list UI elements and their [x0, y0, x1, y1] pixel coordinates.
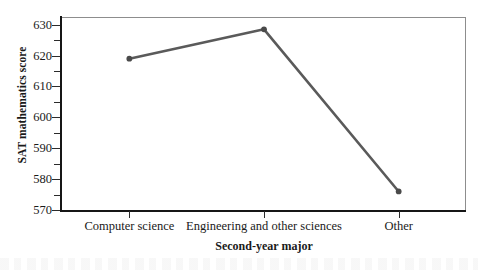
- y-axis-tick-major: [52, 210, 60, 211]
- y-axis-tick-major: [52, 179, 60, 180]
- chart-figure: SAT mathematics score 630620610600590580…: [0, 0, 478, 270]
- page-bleed-artifact: [0, 258, 478, 270]
- y-axis-tick-minor: [54, 102, 60, 103]
- y-axis-tick-label: 590: [10, 142, 52, 154]
- y-axis-tick-minor: [54, 164, 60, 165]
- y-axis-tick-major: [52, 117, 60, 118]
- y-axis-tick-label: 610: [10, 80, 52, 92]
- data-point-marker: [126, 56, 132, 62]
- y-axis-tick-label: 580: [10, 173, 52, 185]
- data-series-line: [62, 17, 466, 210]
- plot-area: [62, 17, 466, 210]
- data-point-marker: [396, 189, 402, 195]
- y-axis-tick-major: [52, 56, 60, 57]
- y-axis-tick-major: [52, 148, 60, 149]
- x-axis-tick-label: Computer science: [84, 219, 174, 234]
- x-axis-tick: [129, 211, 130, 218]
- y-axis-tick-label: 620: [10, 50, 52, 62]
- x-axis-tick: [399, 211, 400, 218]
- y-axis-tick-label: 570: [10, 204, 52, 216]
- x-axis-tick-label: Engineering and other sciences: [186, 219, 342, 234]
- y-axis-tick-minor: [54, 195, 60, 196]
- x-axis-tick: [264, 211, 265, 218]
- y-axis-tick-label: 600: [10, 111, 52, 123]
- x-axis-tick-labels: Computer scienceEngineering and other sc…: [62, 219, 466, 239]
- y-axis-tick-minor: [54, 133, 60, 134]
- series-polyline: [129, 29, 398, 191]
- data-point-marker: [261, 26, 267, 32]
- y-axis-tick-major: [52, 25, 60, 26]
- y-axis-tick-label: 630: [10, 19, 52, 31]
- x-axis-title: Second-year major: [62, 239, 466, 253]
- y-axis-tick-minor: [54, 40, 60, 41]
- y-axis-tick-major: [52, 86, 60, 87]
- x-axis-line: [60, 210, 466, 212]
- y-axis-tick-labels: 630620610600590580570: [0, 0, 52, 270]
- x-axis-tick-label: Other: [384, 219, 412, 234]
- y-axis-tick-minor: [54, 71, 60, 72]
